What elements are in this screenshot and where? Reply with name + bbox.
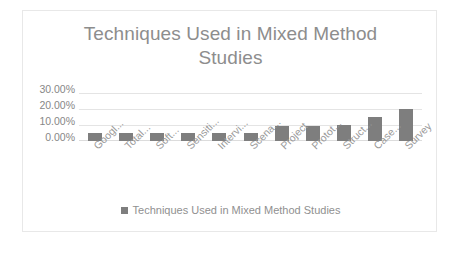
chart-legend: Techniques Used in Mixed Method Studies [23, 204, 438, 217]
y-axis-tick-label: 20.00% [39, 100, 75, 111]
legend-label: Techniques Used in Mixed Method Studies [133, 204, 341, 217]
y-axis-tick-label: 10.00% [39, 116, 75, 127]
x-axis: Googl...Total...Soft...Sensiti...Intervi… [79, 143, 422, 193]
y-axis-tick-label: 30.00% [39, 84, 75, 95]
y-axis-tick-label: 0.00% [45, 132, 75, 143]
chart-title: Techniques Used in Mixed Method Studies [35, 22, 426, 70]
chart-container: Techniques Used in Mixed Method Studies … [22, 10, 437, 232]
legend-swatch-icon [121, 207, 128, 214]
